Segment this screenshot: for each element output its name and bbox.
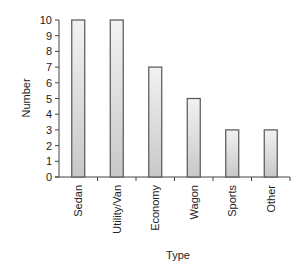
y-tick-label: 10 bbox=[40, 14, 52, 26]
y-tick-label: 0 bbox=[46, 171, 52, 183]
y-tick-label: 1 bbox=[46, 155, 52, 167]
bar-other bbox=[264, 130, 277, 177]
bar-sports bbox=[226, 130, 239, 177]
y-tick-label: 7 bbox=[46, 61, 52, 73]
bar-wagon bbox=[187, 99, 200, 178]
y-axis: 012345678910 bbox=[40, 14, 59, 183]
x-category-label: Sedan bbox=[72, 185, 84, 217]
x-category-label: Utility/Van bbox=[111, 185, 123, 234]
bar-sedan bbox=[72, 20, 85, 177]
y-tick-label: 9 bbox=[46, 30, 52, 42]
x-category-label: Wagon bbox=[188, 185, 200, 219]
bar-utility-van bbox=[110, 20, 123, 177]
y-tick-label: 5 bbox=[46, 93, 52, 105]
y-tick-label: 3 bbox=[46, 124, 52, 136]
bar-chart: 012345678910 SedanUtility/VanEconomyWago… bbox=[0, 0, 302, 274]
y-tick-label: 8 bbox=[46, 45, 52, 57]
x-axis-title: Type bbox=[166, 249, 190, 261]
y-tick-label: 6 bbox=[46, 77, 52, 89]
y-tick-label: 4 bbox=[46, 108, 52, 120]
y-tick-label: 2 bbox=[46, 140, 52, 152]
x-category-label: Economy bbox=[149, 185, 161, 231]
x-category-label: Sports bbox=[226, 185, 238, 217]
x-axis: SedanUtility/VanEconomyWagonSportsOther bbox=[55, 177, 290, 234]
y-axis-title: Number bbox=[20, 78, 32, 117]
x-category-label: Other bbox=[265, 185, 277, 213]
bars bbox=[72, 20, 278, 177]
bar-economy bbox=[149, 67, 162, 177]
